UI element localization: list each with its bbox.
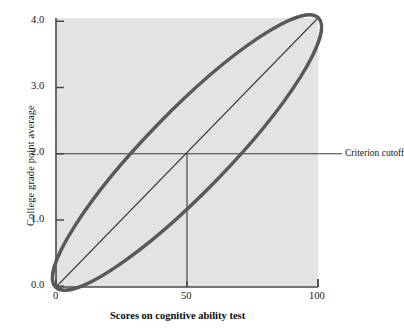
y-tick-label-0: 0.0 (31, 279, 44, 290)
y-tick-label-3: 3.0 (31, 80, 44, 91)
y-tick-label-2: 2.0 (31, 146, 44, 157)
y-tick-label-1: 1.0 (31, 213, 44, 224)
x-tick-label-50: 50 (181, 290, 192, 301)
x-tick-label-0: 0 (53, 290, 58, 301)
criterion-cutoff-label: Criterion cutoff (345, 148, 404, 158)
x-axis-title: Scores on cognitive ability test (110, 310, 245, 321)
y-tick-label-4: 4.0 (31, 14, 44, 25)
y-axis-title: College grade point average (25, 105, 36, 226)
x-tick-label-100: 100 (309, 290, 325, 301)
